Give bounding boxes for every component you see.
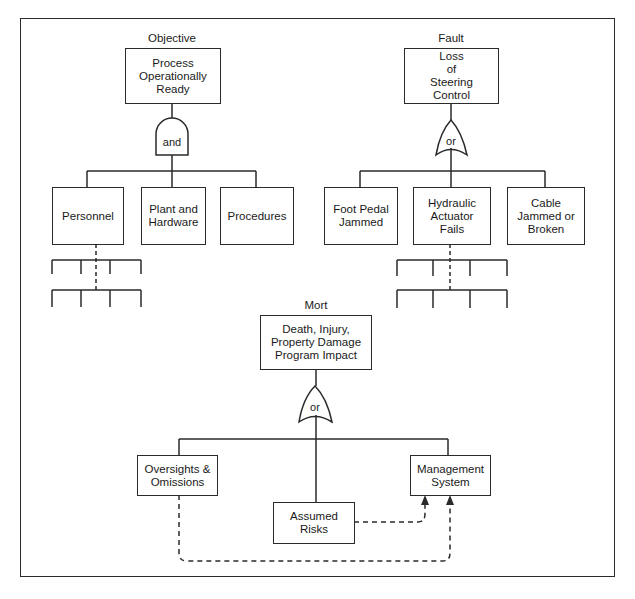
fault-child-hydraulic-actuator: Hydraulic Actuator Fails — [413, 187, 491, 245]
arrow-up-icon — [421, 495, 429, 505]
mort-child-oversights-omissions: Oversights & Omissions — [137, 455, 218, 496]
mort-caption: Mort — [305, 299, 328, 311]
objective-top-event: Process Operationally Ready — [125, 48, 221, 104]
objective-child-procedures: Procedures — [220, 187, 294, 245]
objective-child-plant-hardware: Plant and Hardware — [141, 187, 206, 245]
and-gate-label: and — [163, 136, 181, 148]
mort-child-management-system: Management System — [410, 455, 491, 496]
fault-child-cable: Cable Jammed or Broken — [507, 187, 585, 245]
mort-child-assumed-risks: Assumed Risks — [273, 502, 355, 544]
objective-child-personnel: Personnel — [52, 187, 124, 245]
mort-top-event: Death, Injury, Property Damage Program I… — [260, 315, 372, 370]
objective-caption: Objective — [148, 32, 196, 44]
fault-caption: Fault — [438, 32, 464, 44]
arrow-up-icon — [446, 495, 454, 505]
or-gate-label: or — [310, 401, 320, 413]
fault-child-foot-pedal: Foot Pedal Jammed — [324, 187, 398, 245]
diagram-canvas: Objective Process Operationally Ready an… — [0, 0, 635, 599]
or-gate-label: or — [446, 135, 456, 147]
fault-top-event: Loss of Steering Control — [404, 48, 499, 104]
